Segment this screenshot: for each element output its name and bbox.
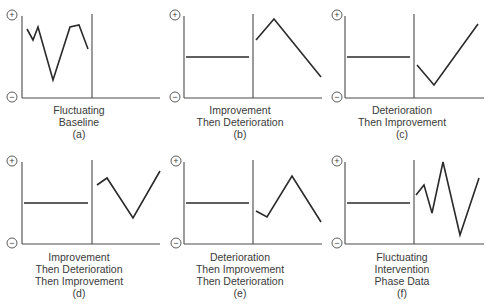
plus-icon: + xyxy=(171,156,181,166)
svg-text:−: − xyxy=(334,92,339,102)
svg-text:−: − xyxy=(173,238,178,248)
plus-icon: + xyxy=(170,10,180,20)
svg-text:+: + xyxy=(173,156,178,166)
svg-text:−: − xyxy=(172,92,177,102)
plus-icon: + xyxy=(332,156,342,166)
panel-e-axes: +− xyxy=(171,156,322,248)
plus-icon: + xyxy=(7,156,17,166)
panel-b-caption: Improvement Then Deterioration (b) xyxy=(170,104,310,140)
panel-a-axes: +− xyxy=(7,10,160,102)
svg-text:+: + xyxy=(9,10,14,20)
panel-c-axes: +− xyxy=(332,10,484,102)
panel-c-caption: Deterioration Then Improvement (c) xyxy=(332,104,472,140)
minus-icon: − xyxy=(170,92,180,102)
plus-icon: + xyxy=(332,10,342,20)
panel-f-caption: Fluctuating Intervention Phase Data (f) xyxy=(332,251,472,299)
panel-a-caption: Fluctuating Baseline (a) xyxy=(9,104,149,140)
svg-text:−: − xyxy=(9,92,14,102)
panel-d-caption: Improvement Then Deterioration Then Impr… xyxy=(9,251,149,299)
svg-text:−: − xyxy=(334,238,339,248)
svg-text:+: + xyxy=(172,10,177,20)
minus-icon: − xyxy=(332,238,342,248)
panel-d-axes: +− xyxy=(7,156,160,248)
minus-icon: − xyxy=(332,92,342,102)
minus-icon: − xyxy=(7,238,17,248)
minus-icon: − xyxy=(7,92,17,102)
panel-d-intervention-line xyxy=(97,171,160,218)
panel-b-axes: +− xyxy=(170,10,322,102)
minus-icon: − xyxy=(171,238,181,248)
svg-text:+: + xyxy=(334,156,339,166)
panel-a-baseline-line xyxy=(27,25,88,80)
panel-e-intervention-line xyxy=(256,176,321,222)
panel-c-intervention-line xyxy=(417,24,478,85)
panel-b-intervention-line xyxy=(256,19,321,77)
panel-f-intervention-line xyxy=(416,162,479,235)
svg-text:+: + xyxy=(334,10,339,20)
plus-icon: + xyxy=(7,10,17,20)
svg-text:+: + xyxy=(9,156,14,166)
panel-f-axes: +− xyxy=(332,156,484,248)
svg-text:−: − xyxy=(9,238,14,248)
panel-e-caption: Deterioration Then Improvement Then Dete… xyxy=(170,251,310,299)
